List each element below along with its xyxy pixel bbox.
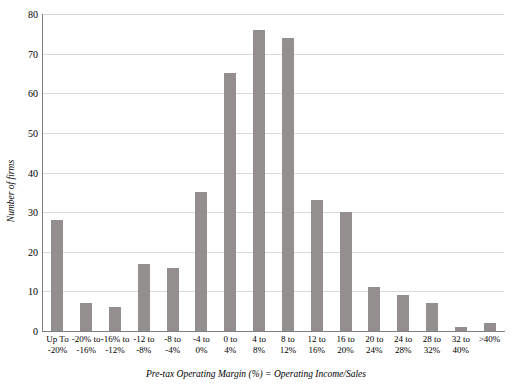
x-axis-tick-label-line: 4% [216,345,245,356]
x-axis-tick-label: 4 to8% [245,334,274,356]
x-axis-tick-label-line: Up To [43,334,72,345]
x-axis-tick-label-line: 0 to [216,334,245,345]
x-axis-title: Pre-tax Operating Margin (%) = Operating… [0,369,512,379]
x-axis-tick-label: 8 to12% [274,334,303,356]
x-axis-tick-label-line: 4 to [245,334,274,345]
x-axis-tick-label: 32 to40% [446,334,475,356]
x-axis-tick-label: -16% to-12% [101,334,130,356]
bar[interactable] [167,268,179,331]
bar[interactable] [224,73,236,331]
x-axis-tick-label-line: 24 to [389,334,418,345]
bar[interactable] [455,327,467,331]
bar[interactable] [282,38,294,331]
bar-slot [331,14,360,331]
bar-chart: 01020304050607080 Up To-20%-20% to-16%-1… [0,0,512,392]
x-axis-tick-label: 16 to20% [331,334,360,356]
bar-slot [129,14,158,331]
x-axis-tick-label: 12 to16% [302,334,331,356]
bar[interactable] [340,212,352,331]
x-axis-tick-label: -8 to-4% [158,334,187,356]
bar-slot [43,14,72,331]
bar[interactable] [51,220,63,331]
y-axis-tick-label: 10 [4,286,38,297]
x-axis-tick-label-line: 32 to [446,334,475,345]
x-axis-tick-label-line: 8% [245,345,274,356]
bar-series [43,14,504,331]
y-axis-tick-label: 20 [4,246,38,257]
bar[interactable] [484,323,496,331]
x-axis-tick-label-line: 20% [331,345,360,356]
x-axis-tick-label: Up To-20% [43,334,72,356]
bar-slot [274,14,303,331]
x-axis-tick-label-line: 8 to [274,334,303,345]
bar[interactable] [253,30,265,331]
x-axis-tick-label: -20% to-16% [72,334,101,356]
x-axis-line [42,331,505,332]
x-axis-tick-label: 20 to24% [360,334,389,356]
bar-slot [72,14,101,331]
bar-slot [418,14,447,331]
bar-slot [158,14,187,331]
bar-slot [360,14,389,331]
y-axis-title: Number of firms [6,136,16,246]
x-axis-tick-label-line: -12% [101,345,130,356]
x-axis-tick-label-line: -8% [129,345,158,356]
x-axis-tick-label-line: -8 to [158,334,187,345]
x-axis-tick-label-line: -16% to [101,334,130,345]
x-axis-tick-label-line: -4% [158,345,187,356]
bar[interactable] [80,303,92,331]
x-axis-tick-label: 28 to32% [418,334,447,356]
x-axis-tick-label-line: 16 to [331,334,360,345]
bar[interactable] [138,264,150,331]
x-axis-tick-label-line: -20% [43,345,72,356]
bar-slot [101,14,130,331]
bar-slot [187,14,216,331]
x-axis-tick-label-line: 20 to [360,334,389,345]
bar-slot [245,14,274,331]
x-axis-tick-label-line: 28% [389,345,418,356]
bar-slot [389,14,418,331]
bar[interactable] [426,303,438,331]
y-axis-tick-label: 80 [4,9,38,20]
bar[interactable] [397,295,409,331]
bar-slot [302,14,331,331]
x-axis-tick-label-line: -16% [72,345,101,356]
y-axis-tick-label: 60 [4,88,38,99]
x-axis-tick-label-line: 40% [446,345,475,356]
x-axis-tick-label: -12 to-8% [129,334,158,356]
x-axis-tick-label-line: -4 to [187,334,216,345]
y-axis-tick-label: 70 [4,48,38,59]
x-axis-tick-label-line: -12 to [129,334,158,345]
x-axis-tick-label: 0 to4% [216,334,245,356]
bar-slot [446,14,475,331]
x-axis-tick-label-line: 0% [187,345,216,356]
bar[interactable] [311,200,323,331]
x-axis-tick-label-line: 12 to [302,334,331,345]
x-axis-tick-label-line: 28 to [418,334,447,345]
bar[interactable] [195,192,207,331]
x-axis-tick-label-line: 24% [360,345,389,356]
x-axis-tick-label-line: >40% [475,334,504,345]
bar-slot [216,14,245,331]
y-axis-tick-label: 0 [4,326,38,337]
x-axis-tick-label: -4 to0% [187,334,216,356]
bar[interactable] [368,287,380,331]
x-axis-tick-label-line: 12% [274,345,303,356]
x-axis-tick-label-line: 16% [302,345,331,356]
x-axis-tick-label: 24 to28% [389,334,418,356]
x-axis-tick-label-line: -20% to [72,334,101,345]
x-axis-tick-label-line: 32% [418,345,447,356]
bar-slot [475,14,504,331]
bar[interactable] [109,307,121,331]
x-axis-tick-label: >40% [475,334,504,356]
x-axis-labels: Up To-20%-20% to-16%-16% to-12%-12 to-8%… [43,334,504,356]
